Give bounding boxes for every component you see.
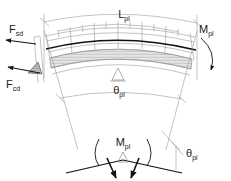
moment-arrow-right xyxy=(201,38,213,70)
label-rotation-angle-main: θpl xyxy=(113,84,125,99)
theta-tick-left xyxy=(56,94,64,102)
left-abutment-face xyxy=(34,36,44,83)
label-span-length: Lpl xyxy=(118,8,130,23)
label-force-cd: Fcd xyxy=(6,78,20,92)
engineering-diagram-figure: Lpl Mpl Fsd Fcd θpl Mpl θpl xyxy=(0,0,231,181)
label-plastic-moment-top-sub: pl xyxy=(208,30,214,38)
hatched-band xyxy=(50,49,192,75)
label-plastic-moment-detail-sub: pl xyxy=(125,143,131,151)
label-force-cd-sub: cd xyxy=(13,85,21,92)
label-rotation-angle-detail: θpl xyxy=(186,147,198,162)
label-rotation-angle-main-sub: pl xyxy=(119,91,125,99)
label-rotation-angle-detail-sub: pl xyxy=(192,154,198,162)
label-plastic-moment-detail-base: M xyxy=(116,136,125,148)
label-span-length-sub: pl xyxy=(124,15,130,23)
force-arrow-sd xyxy=(6,40,36,44)
pin-support-main xyxy=(110,68,126,81)
label-plastic-moment-top: Mpl xyxy=(199,23,214,38)
label-force-sd: Fsd xyxy=(9,23,23,37)
diagram-canvas: Lpl Mpl Fsd Fcd θpl Mpl θpl xyxy=(0,0,231,181)
label-plastic-moment-top-base: M xyxy=(199,23,208,35)
label-force-sd-sub: sd xyxy=(16,30,24,37)
upper-dimension-arc xyxy=(40,14,201,80)
label-plastic-moment-detail: Mpl xyxy=(116,136,131,151)
